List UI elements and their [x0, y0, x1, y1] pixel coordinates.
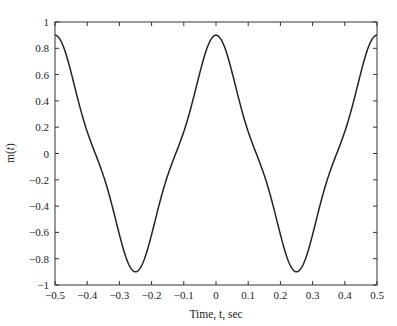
y-tick-label: −0.8 — [29, 253, 49, 265]
y-tick-label: 1 — [44, 16, 50, 28]
y-axis-label: m(t) — [4, 143, 17, 163]
x-tick-label: 0 — [213, 289, 219, 301]
x-tick-label: 0.4 — [338, 289, 352, 301]
y-tick-label: −0.2 — [29, 174, 49, 186]
x-axis-label: Time, t, sec — [189, 308, 242, 321]
y-tick-label: 0.6 — [35, 69, 49, 81]
signal-curve — [55, 35, 377, 272]
y-tick-label: −1 — [37, 279, 49, 291]
x-tick-label: 0.1 — [241, 289, 255, 301]
x-tick-label: −0.1 — [174, 289, 194, 301]
x-tick-label: −0.3 — [109, 289, 129, 301]
line-chart: −0.5−0.4−0.3−0.2−0.100.10.20.30.40.5 10.… — [0, 0, 397, 326]
x-tick-label: −0.4 — [77, 289, 97, 301]
x-tick-label: −0.2 — [142, 289, 162, 301]
x-tick-label: 0.2 — [274, 289, 288, 301]
y-tick-label: 0.2 — [35, 121, 49, 133]
y-tick-label: 0 — [44, 148, 50, 160]
y-tick-label: 0.4 — [35, 95, 49, 107]
y-axis: 10.80.60.40.20−0.2−0.4−0.6−0.8−1 — [29, 16, 377, 291]
y-tick-label: −0.4 — [29, 200, 49, 212]
x-tick-label: 0.5 — [370, 289, 384, 301]
x-tick-label: 0.3 — [306, 289, 320, 301]
y-tick-label: −0.6 — [29, 226, 49, 238]
plot-frame — [55, 22, 377, 285]
y-tick-label: 0.8 — [35, 42, 49, 54]
